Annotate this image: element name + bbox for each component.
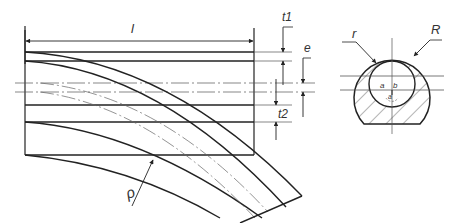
t1-dimension [283,27,293,85]
r-label: r [352,26,357,41]
e-label: e [304,41,311,55]
a-label: a [380,81,385,90]
drawing-canvas: ρ t1 e t2 l [0,0,449,223]
b-label: b [393,81,398,90]
r-leader [356,42,376,63]
t1-label: t1 [282,10,292,24]
section-a-label: a [388,93,392,100]
bend-view [25,52,302,223]
R-leader [414,40,430,56]
length-label: l [131,21,135,36]
t2-label: t2 [278,107,288,121]
rho-label: ρ [122,183,137,202]
e-dimension [303,58,311,117]
bend-outer-line [25,52,302,196]
R-label: R [431,22,440,37]
